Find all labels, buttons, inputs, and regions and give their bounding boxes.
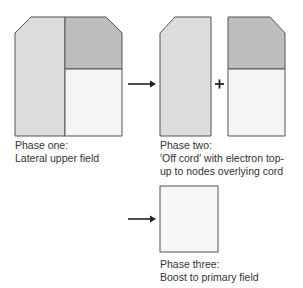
phase-one-description: Lateral upper field <box>15 152 99 165</box>
phase-two-off-cord-field <box>160 17 211 136</box>
phase-two-label: Phase two: 'Off cord' with electron top-… <box>160 139 284 178</box>
phase-one-lateral-region <box>15 17 65 136</box>
phase-one-field <box>15 17 122 136</box>
phase-one-lower-block <box>65 69 122 136</box>
phase-three-boost-field <box>160 186 218 252</box>
right-arrow-icon <box>128 216 156 223</box>
phase-one-title: Phase one: <box>15 139 99 152</box>
phase-one-label: Phase one: Lateral upper field <box>15 139 99 165</box>
phase-one-upper-block <box>65 17 122 69</box>
phase-three-title: Phase three: <box>160 258 259 271</box>
phase-two-lower-block <box>228 69 285 136</box>
phase-three-label: Phase three: Boost to primary field <box>160 258 259 284</box>
phase-three-description: Boost to primary field <box>160 271 259 284</box>
right-arrow-icon <box>128 81 156 88</box>
phase-two-upper-block <box>228 17 285 69</box>
plus-icon <box>215 80 224 89</box>
phase-two-electron-field <box>228 17 285 136</box>
phase-two-title: Phase two: <box>160 139 284 152</box>
phase-two-description-line-2: up to nodes overlying cord <box>160 165 284 178</box>
phase-two-description-line-1: 'Off cord' with electron top- <box>160 152 284 165</box>
